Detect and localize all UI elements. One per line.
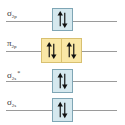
orbital-subscript: 2p	[12, 14, 17, 19]
orbital-label: π2p	[7, 39, 17, 51]
orbital-label: σ2p	[7, 9, 17, 21]
orbital-box	[41, 38, 62, 63]
electron-pair-icon	[42, 39, 61, 62]
electron-pair-icon	[62, 39, 81, 62]
orbital-box	[52, 8, 73, 31]
antibonding-marker: *	[17, 70, 20, 76]
orbital-subscript: 2p	[12, 44, 17, 49]
orbital-box	[61, 38, 82, 63]
electron-pair-icon	[53, 70, 72, 92]
orbital-subscript: 2s	[12, 103, 16, 108]
orbital-box	[52, 98, 73, 122]
orbital-label: σ2s	[7, 98, 16, 110]
electron-pair-icon	[53, 99, 72, 121]
electron-pair-icon	[53, 9, 72, 30]
orbital-box	[52, 69, 73, 93]
